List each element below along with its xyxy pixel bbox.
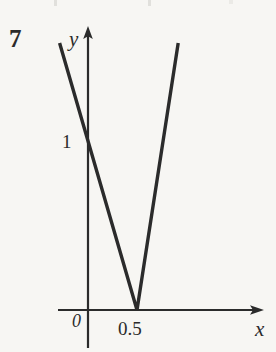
- x-axis-label: x: [255, 319, 264, 340]
- problem-number-label: 7: [9, 26, 22, 51]
- x-tick-label-0-5: 0.5: [118, 319, 142, 338]
- y-axis-label: y: [69, 29, 78, 50]
- curve-absolute-value: [60, 43, 179, 310]
- figure-canvas: 7 y x 1 0.5 0: [0, 0, 276, 352]
- origin-label: 0: [72, 312, 81, 330]
- graph-plot: [0, 0, 276, 352]
- y-tick-label-1: 1: [62, 132, 72, 151]
